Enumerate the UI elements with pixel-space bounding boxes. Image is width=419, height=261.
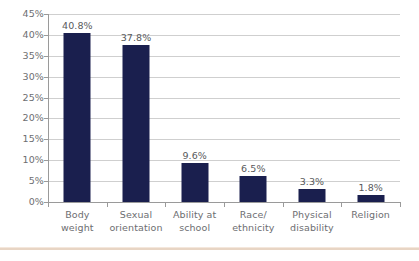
x-axis-tick (165, 203, 166, 207)
x-axis-tick (283, 203, 284, 207)
x-axis-category-label: Sexualorientation (107, 209, 166, 234)
bar (122, 45, 149, 203)
bar (181, 163, 208, 203)
x-axis-category-line: Physical (283, 209, 342, 222)
y-axis-tick-label: 10% (4, 155, 44, 165)
bar-group: 37.8% (107, 14, 166, 203)
y-axis-tick-label: 35% (4, 51, 44, 61)
bar-group: 3.3% (283, 14, 342, 203)
y-axis-tick-label: 15% (4, 134, 44, 144)
x-axis-category-line: ethnicity (224, 222, 283, 235)
bar-value-label: 6.5% (241, 163, 266, 174)
x-axis-tick (107, 203, 108, 207)
x-axis-category-line: Body (48, 209, 107, 222)
y-axis-tick-label: 45% (4, 9, 44, 19)
bar-value-label: 3.3% (300, 176, 325, 187)
bar-value-label: 37.8% (121, 32, 152, 43)
bar (298, 189, 325, 203)
bar-value-label: 9.6% (182, 150, 207, 161)
bar-group: 1.8% (341, 14, 400, 203)
bar-group: 40.8% (48, 14, 107, 203)
x-axis-category-line: orientation (107, 222, 166, 235)
x-axis-category-label: Physicaldisability (283, 209, 342, 234)
x-axis-category-line: disability (283, 222, 342, 235)
y-axis-tick-label: 40% (4, 30, 44, 40)
x-axis-category-line: Race/ (224, 209, 283, 222)
x-axis-category-line: Sexual (107, 209, 166, 222)
x-axis-category-labels: BodyweightSexualorientationAbility atsch… (48, 209, 400, 249)
x-axis-category-line: Religion (341, 209, 400, 222)
y-axis-tick-labels: 45%40%35%30%25%20%15%10%5%0% (0, 0, 44, 261)
y-axis-tick-label: 30% (4, 72, 44, 82)
y-axis-tick-label: 20% (4, 113, 44, 123)
bar-group: 6.5% (224, 14, 283, 203)
bar-chart: 45%40%35%30%25%20%15%10%5%0% 40.8%37.8%9… (0, 0, 419, 261)
x-axis-category-line: weight (48, 222, 107, 235)
x-axis-tick (48, 203, 49, 207)
x-axis-tick (400, 203, 401, 207)
x-axis-category-line: school (165, 222, 224, 235)
x-axis-category-label: Race/ethnicity (224, 209, 283, 234)
bottom-rule (0, 248, 419, 250)
bars-layer: 40.8%37.8%9.6%6.5%3.3%1.8% (48, 14, 400, 203)
x-axis-category-label: Ability atschool (165, 209, 224, 234)
bar (240, 176, 267, 203)
x-axis-tick (224, 203, 225, 207)
y-axis-tick-label: 0% (4, 197, 44, 207)
x-axis-category-label: Religion (341, 209, 400, 222)
bar (64, 33, 91, 203)
bar-group: 9.6% (165, 14, 224, 203)
y-axis-tick-label: 5% (4, 176, 44, 186)
x-axis-category-line: Ability at (165, 209, 224, 222)
bar-value-label: 40.8% (62, 20, 93, 31)
x-axis-tick (341, 203, 342, 207)
y-axis-tick-label: 25% (4, 93, 44, 103)
x-axis-category-label: Bodyweight (48, 209, 107, 234)
bar-value-label: 1.8% (358, 182, 383, 193)
